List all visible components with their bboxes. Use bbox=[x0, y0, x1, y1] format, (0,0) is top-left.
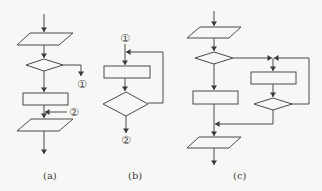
decision-diamond-main bbox=[195, 52, 233, 64]
process-box bbox=[23, 93, 68, 105]
decision-diamond-loop bbox=[254, 98, 292, 110]
flowchart-figure: ① ② (a) ① ② (b) bbox=[0, 0, 322, 191]
decision-diamond bbox=[26, 59, 63, 71]
panel-b: ① ② (b) bbox=[103, 32, 163, 181]
connector-in-label: ② bbox=[69, 106, 79, 119]
caption-b: (b) bbox=[128, 170, 142, 181]
process-box-loop bbox=[251, 72, 296, 84]
panel-c: (c) bbox=[187, 11, 309, 181]
io-parallelogram-bottom bbox=[17, 119, 73, 131]
io-parallelogram-bottom bbox=[187, 137, 241, 148]
io-parallelogram-top bbox=[17, 33, 73, 45]
connector-out-label: ① bbox=[77, 78, 87, 91]
decision-diamond bbox=[103, 92, 148, 116]
caption-c: (c) bbox=[233, 170, 247, 181]
process-box bbox=[104, 66, 150, 78]
io-parallelogram-top bbox=[187, 27, 241, 38]
merge-arrow bbox=[215, 110, 273, 124]
process-box-left bbox=[193, 91, 238, 104]
caption-a: (a) bbox=[43, 170, 57, 181]
panel-a: ① ② (a) bbox=[17, 14, 87, 181]
connector-out-label: ② bbox=[121, 134, 131, 147]
connector-in-label: ① bbox=[120, 32, 130, 45]
branch-arrow-out bbox=[63, 65, 81, 76]
